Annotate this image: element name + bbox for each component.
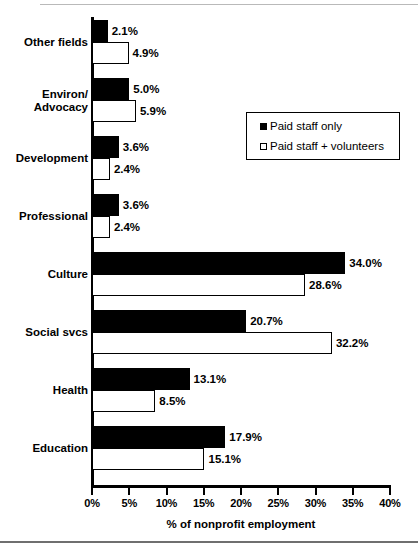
bar-value-label: 5.0%: [133, 78, 159, 100]
category-label: Other fields: [0, 36, 88, 49]
category-label-line: Environ/: [0, 88, 88, 101]
category-label: Education: [0, 442, 88, 455]
category-label-line: Other fields: [0, 36, 88, 49]
x-axis-tick: [315, 488, 317, 495]
x-axis-tick: [389, 488, 391, 495]
bar-chart-plot-area: 0%5%10%15%20%25%30%35%40% Other fieldsEn…: [0, 0, 418, 545]
bar-value-label: 3.6%: [123, 194, 149, 216]
x-axis-tick: [203, 488, 205, 495]
category-label-line: Health: [0, 384, 88, 397]
x-axis-tick: [128, 488, 130, 495]
category-label-line: Culture: [0, 268, 88, 281]
bar-paid-staff-only: [92, 136, 119, 158]
bar-value-label: 2.1%: [112, 20, 138, 42]
legend-item-paid-staff-plus-volunteers: Paid staff + volunteers: [260, 140, 384, 152]
chart-legend: Paid staff only Paid staff + volunteers: [246, 112, 400, 160]
x-axis-tick: [240, 488, 242, 495]
bar-value-label: 20.7%: [250, 310, 283, 332]
x-axis-tick: [91, 488, 93, 495]
bar-paid-staff-plus-volunteers: [92, 390, 155, 412]
x-axis-tick-label: 0%: [72, 497, 112, 509]
x-axis-tick-label: 5%: [109, 497, 149, 509]
x-axis-tick-label: 35%: [333, 497, 373, 509]
bar-paid-staff-only: [92, 368, 190, 390]
bar-paid-staff-plus-volunteers: [92, 42, 129, 64]
bar-value-label: 5.9%: [140, 100, 166, 122]
bar-value-label: 8.5%: [159, 390, 185, 412]
bar-value-label: 28.6%: [309, 274, 342, 296]
legend-label: Paid staff only: [270, 120, 342, 132]
bar-value-label: 4.9%: [133, 42, 159, 64]
bar-paid-staff-only: [92, 310, 246, 332]
x-axis-tick-label: 25%: [258, 497, 298, 509]
category-label-line: Professional: [0, 210, 88, 223]
category-label-line: Development: [0, 152, 88, 165]
bar-value-label: 2.4%: [114, 216, 140, 238]
x-axis-tick-label: 30%: [296, 497, 336, 509]
category-label-line: Education: [0, 442, 88, 455]
x-axis-tick: [277, 488, 279, 495]
x-axis-tick-label: 20%: [221, 497, 261, 509]
bar-value-label: 17.9%: [229, 426, 262, 448]
bar-value-label: 2.4%: [114, 158, 140, 180]
bar-paid-staff-only: [92, 78, 129, 100]
bar-paid-staff-plus-volunteers: [92, 100, 136, 122]
category-label: Professional: [0, 210, 88, 223]
bar-value-label: 15.1%: [208, 448, 241, 470]
bar-paid-staff-plus-volunteers: [92, 216, 110, 238]
scan-artifact-bottom-line: [0, 541, 418, 543]
category-label: Social svcs: [0, 326, 88, 339]
bar-paid-staff-only: [92, 426, 225, 448]
bar-paid-staff-plus-volunteers: [92, 274, 305, 296]
bar-paid-staff-only: [92, 20, 108, 42]
x-axis-tick-label: 10%: [147, 497, 187, 509]
bar-value-label: 3.6%: [123, 136, 149, 158]
x-axis-tick: [166, 488, 168, 495]
bar-paid-staff-plus-volunteers: [92, 448, 204, 470]
legend-item-paid-staff-only: Paid staff only: [260, 120, 342, 132]
category-label-line: Social svcs: [0, 326, 88, 339]
bar-paid-staff-only: [92, 252, 345, 274]
bar-paid-staff-plus-volunteers: [92, 332, 332, 354]
bar-value-label: 32.2%: [336, 332, 369, 354]
bar-paid-staff-plus-volunteers: [92, 158, 110, 180]
bar-value-label: 13.1%: [194, 368, 227, 390]
category-label: Development: [0, 152, 88, 165]
legend-swatch-filled-square-icon: [260, 123, 267, 130]
x-axis-title: % of nonprofit employment: [91, 518, 391, 530]
x-axis-tick-label: 15%: [184, 497, 224, 509]
x-axis-tick: [352, 488, 354, 495]
bar-paid-staff-only: [92, 194, 119, 216]
legend-label: Paid staff + volunteers: [270, 140, 384, 152]
category-label: Environ/Advocacy: [0, 88, 88, 114]
chart-page: 0%5%10%15%20%25%30%35%40% Other fieldsEn…: [0, 0, 418, 545]
bar-value-label: 34.0%: [349, 252, 382, 274]
category-label: Health: [0, 384, 88, 397]
category-label-line: Advocacy: [0, 101, 88, 114]
legend-swatch-hollow-square-icon: [260, 143, 267, 150]
x-axis-tick-label: 40%: [370, 497, 410, 509]
category-label: Culture: [0, 268, 88, 281]
